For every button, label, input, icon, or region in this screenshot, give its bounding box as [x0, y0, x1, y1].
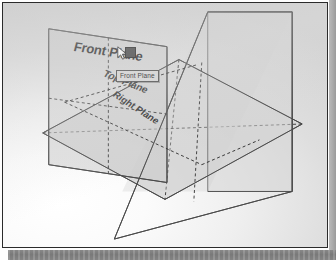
- screenshot-root: Front Plane Top Plane Right Plane Front …: [0, 0, 336, 260]
- cropped-toolbar-strip: [8, 250, 336, 260]
- cad-3d-viewport[interactable]: Front Plane Top Plane Right Plane Front …: [3, 3, 327, 247]
- plane-tooltip: Front Plane: [116, 70, 159, 82]
- viewport-frame: Front Plane Top Plane Right Plane Front …: [2, 2, 328, 248]
- plane-geometry-svg: [3, 3, 327, 247]
- toolbar-texture: [8, 250, 336, 260]
- page-edge-strip: [329, 0, 336, 252]
- selection-handle[interactable]: [125, 47, 136, 58]
